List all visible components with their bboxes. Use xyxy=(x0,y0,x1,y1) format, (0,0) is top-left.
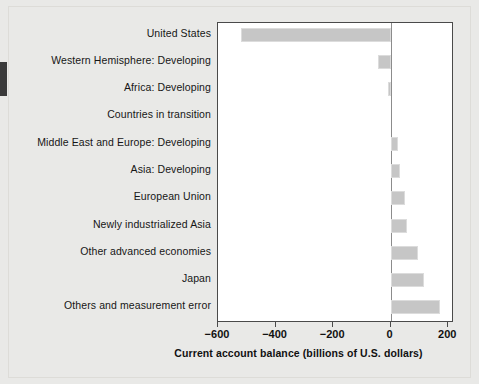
category-axis-labels: United StatesWestern Hemisphere: Develop… xyxy=(0,22,211,322)
category-label: European Union xyxy=(0,190,211,202)
x-tick xyxy=(390,322,391,327)
bar xyxy=(391,137,398,151)
figure-page: United StatesWestern Hemisphere: Develop… xyxy=(0,0,479,384)
x-tick-label: −400 xyxy=(262,328,287,340)
category-label: United States xyxy=(0,27,211,39)
bar xyxy=(391,191,405,205)
category-label: Asia: Developing xyxy=(0,163,211,175)
bar xyxy=(391,164,400,178)
bar xyxy=(241,28,391,42)
x-tick-label: −600 xyxy=(205,328,230,340)
plot-area xyxy=(217,22,453,322)
x-tick xyxy=(217,322,218,327)
category-label: Countries in transition xyxy=(0,108,211,120)
category-label: Western Hemisphere: Developing xyxy=(0,54,211,66)
x-tick-label: 0 xyxy=(387,328,393,340)
x-tick xyxy=(447,322,448,327)
category-label: Middle East and Europe: Developing xyxy=(0,136,211,148)
x-axis-title: Current account balance (billions of U.S… xyxy=(0,347,479,359)
bar xyxy=(388,82,390,96)
x-tick-label: −200 xyxy=(320,328,345,340)
bar-chart: United StatesWestern Hemisphere: Develop… xyxy=(0,0,479,384)
category-label: Africa: Developing xyxy=(0,81,211,93)
bar xyxy=(391,219,407,233)
category-label: Japan xyxy=(0,272,211,284)
x-tick xyxy=(275,322,276,327)
bar xyxy=(391,300,440,314)
x-tick-label: 200 xyxy=(438,328,456,340)
x-axis-title-text: Current account balance (billions of U.S… xyxy=(174,347,422,359)
category-label: Others and measurement error xyxy=(0,299,211,311)
bar xyxy=(391,246,418,260)
category-label: Newly industrialized Asia xyxy=(0,218,211,230)
category-label: Other advanced economies xyxy=(0,245,211,257)
x-tick xyxy=(332,322,333,327)
bar xyxy=(391,273,424,287)
bar xyxy=(378,55,391,69)
